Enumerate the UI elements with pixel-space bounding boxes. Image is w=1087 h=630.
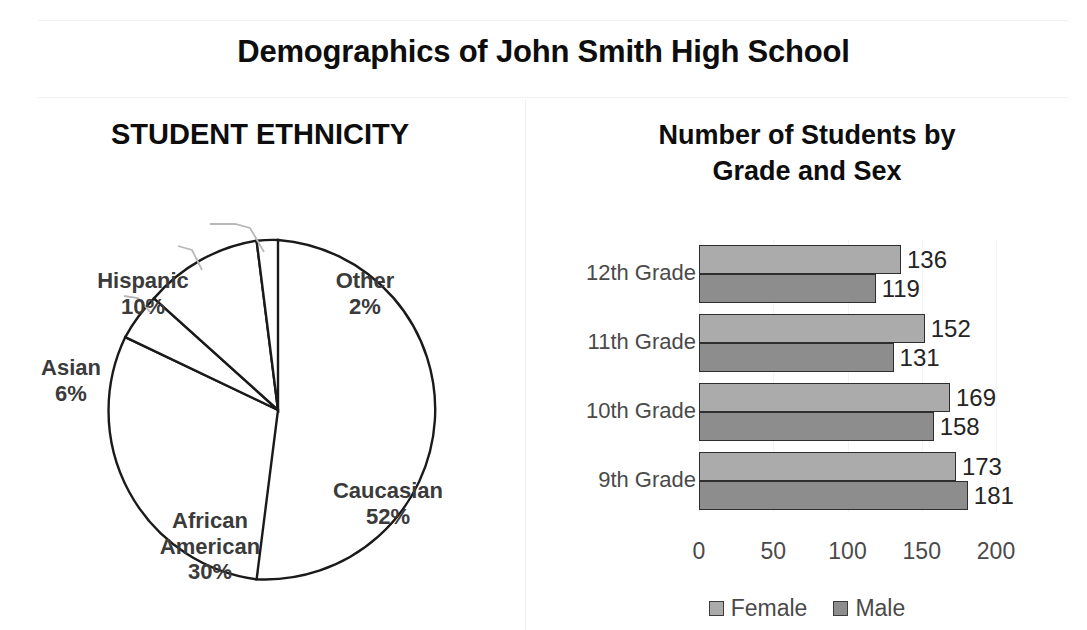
grade-axis-label: 9th Grade — [598, 467, 696, 493]
bar-chart-legend: Female Male — [526, 595, 1087, 622]
pie-label-asian-name: Asian — [41, 355, 101, 380]
bar-value-label: 173 — [962, 453, 1002, 481]
legend-swatch-female-icon — [709, 601, 724, 616]
bar-female — [699, 245, 901, 274]
bar-female — [699, 452, 956, 481]
pie-label-hispanic: Hispanic 10% — [78, 268, 208, 319]
infographic-canvas: Demographics of John Smith High School S… — [0, 0, 1087, 630]
grade-axis-label: 12th Grade — [586, 260, 696, 286]
bar-male — [699, 343, 894, 372]
pie-label-caucasian-pct: 52% — [366, 504, 410, 529]
bar-female — [699, 383, 950, 412]
x-axis-tick-label: 100 — [828, 538, 866, 565]
x-axis-tick-label: 0 — [693, 538, 706, 565]
pie-label-asian: Asian 6% — [20, 355, 122, 406]
legend-label-female: Female — [731, 595, 808, 622]
legend-label-male: Male — [855, 595, 905, 622]
legend-item-male: Male — [833, 595, 905, 622]
bar-female — [699, 314, 925, 343]
page-title: Demographics of John Smith High School — [0, 34, 1087, 70]
pie-label-african-american: African American 30% — [125, 508, 295, 585]
bar-value-label: 152 — [931, 315, 971, 343]
bar-chart-plot-area: 12th Grade13611911th Grade15213110th Gra… — [526, 100, 1087, 630]
pie-label-asian-pct: 6% — [55, 381, 87, 406]
bar-male — [699, 412, 934, 441]
bar-value-label: 158 — [940, 413, 980, 441]
pie-chart-panel: STUDENT ETHNICITY Hispanic 10% Other 2% — [0, 100, 520, 630]
legend-item-female: Female — [709, 595, 808, 622]
bar-value-label: 169 — [956, 384, 996, 412]
bar-chart-panel: Number of Students by Grade and Sex 12th… — [525, 100, 1087, 630]
pie-label-african-name: African — [172, 508, 248, 533]
bar-male — [699, 274, 876, 303]
bar-value-label: 136 — [907, 246, 947, 274]
bar-value-label: 131 — [900, 344, 940, 372]
grade-axis-label: 10th Grade — [586, 398, 696, 424]
top-divider — [38, 20, 1068, 21]
x-axis-tick-label: 150 — [903, 538, 941, 565]
legend-swatch-male-icon — [833, 601, 848, 616]
bar-value-label: 181 — [974, 482, 1014, 510]
pie-label-african-pct: 30% — [188, 559, 232, 584]
bar-male — [699, 481, 968, 510]
pie-label-african-name2: American — [160, 534, 260, 559]
pie-label-hispanic-pct: 10% — [121, 294, 165, 319]
pie-label-caucasian-name: Caucasian — [333, 478, 443, 503]
pie-label-caucasian: Caucasian 52% — [318, 478, 458, 529]
pie-label-other: Other 2% — [305, 268, 425, 319]
pie-label-hispanic-name: Hispanic — [97, 268, 189, 293]
pie-label-other-name: Other — [336, 268, 395, 293]
grade-axis-label: 11th Grade — [588, 329, 696, 355]
x-axis-tick-label: 50 — [760, 538, 786, 565]
title-divider — [38, 97, 1068, 98]
pie-label-other-pct: 2% — [349, 294, 381, 319]
bar-value-label: 119 — [882, 275, 920, 303]
x-axis-tick-label: 200 — [977, 538, 1015, 565]
